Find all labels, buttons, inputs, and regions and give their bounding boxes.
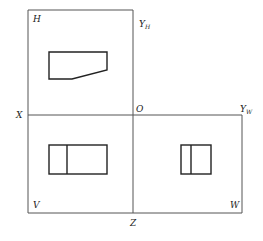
label-z: Z (129, 218, 137, 228)
top-view-shape (49, 52, 107, 79)
label-yw: YW (240, 104, 253, 115)
label-h: H (32, 14, 41, 24)
projection-diagram: H YH X O YW V W Z (0, 0, 263, 241)
front-view-rect (49, 145, 107, 174)
label-yh: YH (139, 19, 151, 30)
label-w: W (230, 200, 240, 210)
label-x: X (15, 110, 23, 120)
h-plane-frame (28, 10, 133, 213)
side-view-rect (181, 145, 211, 174)
label-o: O (136, 104, 144, 114)
label-v: V (33, 200, 41, 210)
